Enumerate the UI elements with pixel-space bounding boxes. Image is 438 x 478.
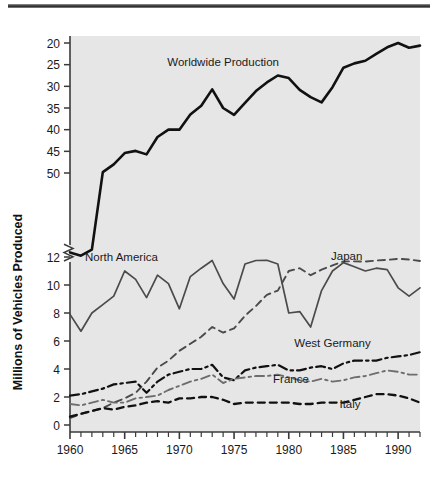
y-tick-label: 10 [47, 279, 61, 293]
y-tick-label: 4 [53, 363, 60, 377]
series-label-france: France [273, 373, 309, 385]
y-tick-label: 45 [47, 145, 61, 159]
series-label-west-germany: West Germany [294, 337, 371, 349]
y-tick-label: 0 [53, 419, 60, 433]
x-tick-label: 1960 [57, 443, 84, 457]
x-tick-label: 1985 [330, 443, 357, 457]
x-tick-label: 1970 [166, 443, 193, 457]
y-tick-label: 50 [47, 167, 61, 181]
x-tick-label: 1990 [385, 443, 412, 457]
y-tick-label: 2 [53, 391, 60, 405]
y-tick-label: 8 [53, 307, 60, 321]
y-tick-label: 35 [47, 102, 61, 116]
x-tick-label: 1980 [275, 443, 302, 457]
series-label-north-america: North America [85, 251, 158, 263]
line-chart: Worldwide ProductionNorth AmericaJapanWe… [0, 0, 438, 478]
plot-background [70, 36, 420, 432]
y-tick-label: 20 [47, 37, 61, 51]
y-axis-title: Millions of Vehicles Produced [11, 214, 25, 390]
y-tick-label: 12 [47, 251, 61, 265]
x-tick-label: 1975 [221, 443, 248, 457]
figure-page: Worldwide ProductionNorth AmericaJapanWe… [0, 0, 438, 478]
series-label-japan: Japan [331, 250, 362, 262]
series-label-worldwide-production: Worldwide Production [167, 56, 279, 68]
y-tick-label: 40 [47, 123, 61, 137]
y-tick-label: 30 [47, 80, 61, 94]
x-tick-label: 1965 [111, 443, 138, 457]
y-tick-label: 6 [53, 335, 60, 349]
y-tick-label: 25 [47, 58, 61, 72]
series-label-italy: Italy [339, 398, 360, 410]
